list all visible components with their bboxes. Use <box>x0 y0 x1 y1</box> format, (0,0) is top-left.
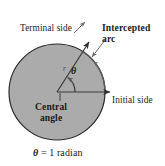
theta-symbol-label: θ <box>71 66 76 77</box>
radian-diagram: Terminal side Interceptedarc Initial sid… <box>0 0 165 166</box>
intercepted-arc-label: Interceptedarc <box>102 22 150 44</box>
radius-terminal-label: r <box>63 65 66 73</box>
intercepted-arc-label-line1: Intercepted <box>102 22 150 33</box>
central-angle-label: Centralangle <box>35 101 67 124</box>
terminal-side-leader <box>74 22 85 33</box>
radius-arc-label: r <box>95 60 98 68</box>
central-angle-label-line1: Central <box>35 101 67 112</box>
caption-text: = 1 radian <box>38 147 82 158</box>
intercepted-arc-label-line2: arc <box>102 33 115 44</box>
central-angle-label-line2: angle <box>40 112 62 123</box>
figure-caption: θ = 1 radian <box>33 148 83 159</box>
terminal-side-label: Terminal side <box>20 23 72 33</box>
initial-side-label: Initial side <box>112 95 153 105</box>
